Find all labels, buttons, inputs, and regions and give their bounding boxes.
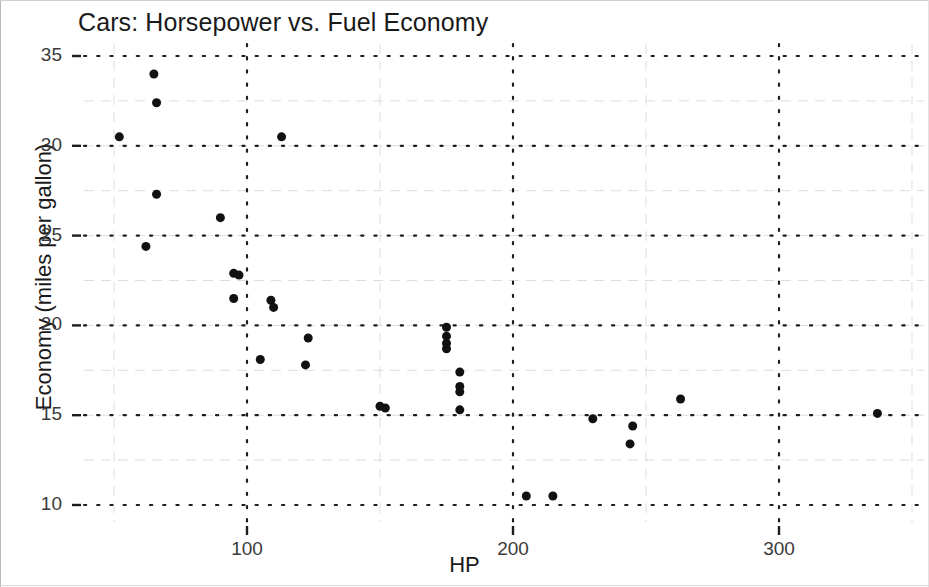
data-point [455, 405, 464, 414]
y-tick-label: 30 [22, 134, 62, 156]
data-point [141, 242, 150, 251]
data-point [628, 421, 637, 430]
y-tick-label: 35 [22, 44, 62, 66]
data-point [229, 294, 238, 303]
data-point [455, 387, 464, 396]
data-point [235, 271, 244, 280]
data-point [455, 368, 464, 377]
x-tick-label: 100 [217, 538, 277, 560]
x-tick-label: 300 [749, 538, 809, 560]
axis-ticks [72, 56, 779, 535]
data-point [381, 404, 390, 413]
data-point [301, 360, 310, 369]
data-point [676, 395, 685, 404]
y-tick-label: 10 [22, 493, 62, 515]
data-point [588, 414, 597, 423]
y-tick-label: 25 [22, 224, 62, 246]
data-point [626, 439, 635, 448]
data-point [873, 409, 882, 418]
y-tick-label: 15 [22, 403, 62, 425]
x-tick-label: 200 [483, 538, 543, 560]
data-points [115, 69, 882, 500]
y-tick-label: 20 [22, 313, 62, 335]
data-point [277, 132, 286, 141]
data-point [442, 323, 451, 332]
data-point [548, 492, 557, 501]
data-point [269, 303, 278, 312]
data-point [152, 98, 161, 107]
data-point [442, 344, 451, 353]
data-point [152, 190, 161, 199]
data-point [256, 355, 265, 364]
data-point [216, 213, 225, 222]
chart-screenshot: Cars: Horsepower vs. Fuel Economy Econom… [0, 0, 929, 587]
gridlines [84, 44, 924, 522]
data-point [522, 492, 531, 501]
data-point [149, 69, 158, 78]
data-point [304, 333, 313, 342]
scatter-plot-canvas [0, 0, 929, 587]
data-point [115, 132, 124, 141]
